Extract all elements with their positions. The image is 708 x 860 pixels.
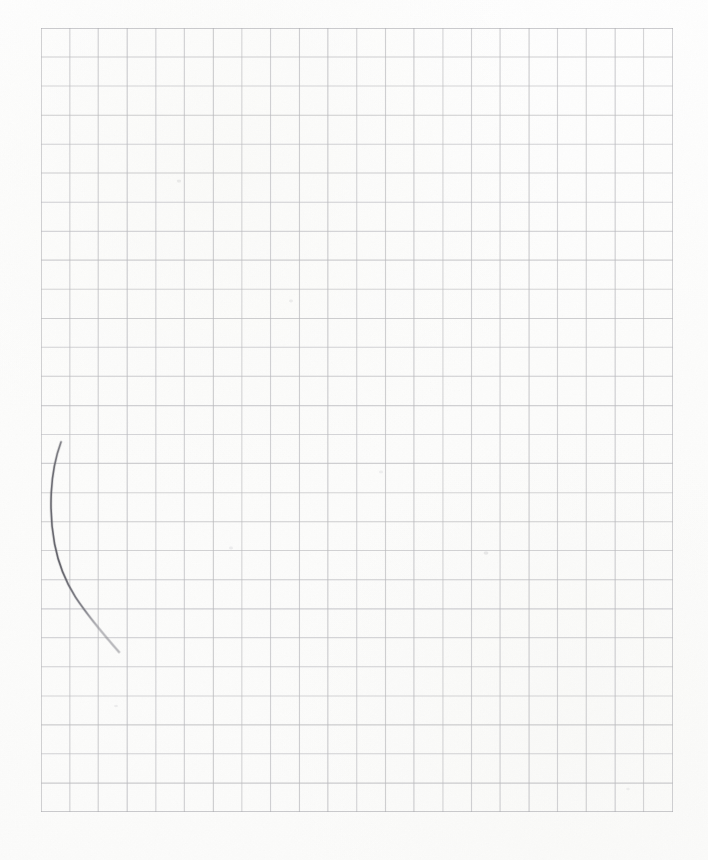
page-title: Blank graph paper with hand-drawn curve <box>0 0 1 1</box>
grid-line-set <box>41 28 673 812</box>
graph-grid-area <box>41 28 673 812</box>
graph-paper-page: Blank graph paper with hand-drawn curve <box>0 0 708 860</box>
